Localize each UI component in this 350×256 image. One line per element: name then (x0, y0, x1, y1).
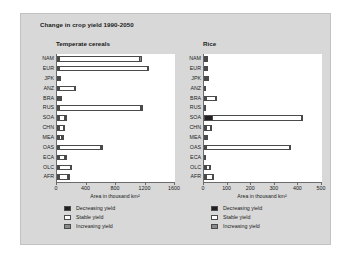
stacked-bar (57, 86, 76, 91)
category-label: ECA (32, 155, 54, 160)
stacked-bar (204, 145, 291, 150)
stacked-bar (204, 174, 214, 179)
bar-segment (147, 66, 149, 71)
stacked-bar (204, 96, 217, 101)
category-label: NAM (32, 56, 54, 61)
x-axis-tick-label: 1200 (139, 186, 151, 191)
bar-segment (141, 105, 143, 110)
legend-item: Increasing yield (211, 222, 262, 231)
category-label: NAM (179, 56, 201, 61)
legend: Decreasing yieldStable yieldIncreasing y… (64, 204, 115, 231)
bar-segment (209, 165, 211, 170)
stacked-bar (57, 125, 65, 130)
chart-panel-rice: Rice NAMEURJPKANZBRARUSSOACHNMEAOASECAOL… (181, 40, 329, 240)
category-label: SOA (179, 115, 201, 120)
category-label: ANZ (32, 86, 54, 91)
category-label: EUR (179, 66, 201, 71)
stacked-bar (204, 155, 206, 160)
bar-segment (74, 86, 76, 91)
bar-segment (139, 56, 142, 61)
stacked-bar (57, 145, 103, 150)
category-label: OAS (179, 145, 201, 150)
stacked-bar (204, 135, 208, 140)
category-label: JPK (179, 76, 201, 81)
bar-segment (301, 115, 303, 120)
category-label: BRA (32, 96, 54, 101)
bar-segment (204, 155, 206, 160)
legend-label: Increasing yield (76, 224, 113, 229)
figure-title: Change in crop yield 1990-2050 (40, 21, 134, 28)
category-label: MEA (32, 135, 54, 140)
legend-swatch-stable (211, 215, 218, 221)
category-label: ANZ (179, 86, 201, 91)
legend-item: Decreasing yield (211, 204, 262, 213)
legend: Decreasing yieldStable yieldIncreasing y… (211, 204, 262, 231)
stacked-bar (57, 155, 67, 160)
legend-label: Stable yield (76, 215, 103, 220)
category-label: AFR (179, 174, 201, 179)
legend-label: Decreasing yield (76, 206, 115, 211)
stacked-bar (204, 66, 208, 71)
stacked-bar (57, 165, 72, 170)
bar-segment (63, 125, 65, 130)
legend-item: Stable yield (211, 213, 262, 222)
x-axis-title: Area in thousand km² (90, 193, 139, 199)
bar-segment (212, 174, 214, 179)
category-label: RUS (32, 105, 54, 110)
stacked-bar (57, 66, 149, 71)
stacked-bar (57, 56, 142, 61)
category-label: ECA (179, 155, 201, 160)
category-label: AFR (32, 174, 54, 179)
category-label: CHN (179, 125, 201, 130)
bar-segment (289, 145, 291, 150)
panel-title: Temperate cereals (56, 40, 110, 47)
category-label: OAS (32, 145, 54, 150)
category-label: MEA (179, 135, 201, 140)
stacked-bar (204, 125, 212, 130)
legend-swatch-increasing (211, 224, 218, 230)
x-axis-title: Area in thousand km² (237, 193, 286, 199)
x-axis-tick-label: 400 (293, 186, 302, 191)
x-axis-tick-label: 100 (222, 186, 231, 191)
x-axis: Area in thousand km² 0100200300400500 (203, 182, 321, 204)
bar-segment (207, 76, 209, 81)
x-axis-tick-label: 0 (202, 186, 205, 191)
x-axis-tick-label: 1600 (168, 186, 180, 191)
bar-segment (59, 56, 140, 61)
bar-segment (206, 145, 290, 150)
category-label: OLC (32, 165, 54, 170)
stacked-bar (57, 96, 62, 101)
x-axis-tick-label: 400 (81, 186, 90, 191)
bar-segment (210, 125, 212, 130)
plot-area: NAMEURJPKANZBRARUSSOACHNMEAOASECAOLCAFR (56, 54, 175, 183)
bar-segment (204, 86, 206, 91)
legend-swatch-decreasing (64, 206, 71, 212)
bar-segment (206, 66, 208, 71)
chart-panel-temperate-cereals: Temperate cereals NAMEURJPKANZBRARUSSOAC… (34, 40, 182, 240)
legend-item: Increasing yield (64, 222, 115, 231)
bar-segment (70, 165, 72, 170)
bar-segment (59, 76, 61, 81)
category-label: CHN (32, 125, 54, 130)
x-axis-tick-label: 200 (246, 186, 255, 191)
bar-segment (59, 66, 148, 71)
legend-label: Increasing yield (223, 224, 260, 229)
stacked-bar (57, 115, 67, 120)
x-axis: Area in thousand km² 040080012001600 (56, 182, 174, 204)
category-label: EUR (32, 66, 54, 71)
legend-label: Decreasing yield (223, 206, 262, 211)
x-axis-tick-label: 800 (111, 186, 120, 191)
legend-item: Decreasing yield (64, 204, 115, 213)
x-axis-tick-label: 0 (55, 186, 58, 191)
bar-segment (206, 56, 208, 61)
bar-segment (59, 86, 75, 91)
bar-segment (204, 105, 206, 110)
plot-area: NAMEURJPKANZBRARUSSOACHNMEAOASECAOLCAFR (203, 54, 322, 183)
bar-segment (101, 145, 103, 150)
figure-container: Change in crop yield 1990-2050 Temperate… (20, 13, 331, 245)
legend-item: Stable yield (64, 213, 115, 222)
bar-segment (215, 96, 217, 101)
bar-segment (206, 135, 208, 140)
bar-segment (212, 115, 301, 120)
stacked-bar (204, 165, 211, 170)
